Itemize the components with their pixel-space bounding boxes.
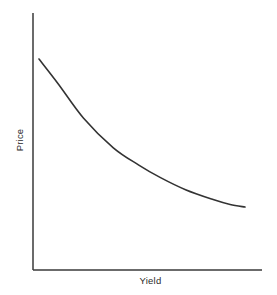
x-axis-label: Yield bbox=[0, 276, 277, 286]
price-yield-chart: Yield Price bbox=[0, 0, 277, 295]
y-axis-label: Price bbox=[15, 120, 25, 160]
price-yield-curve-line bbox=[39, 59, 245, 207]
chart-plot-area bbox=[0, 0, 277, 295]
